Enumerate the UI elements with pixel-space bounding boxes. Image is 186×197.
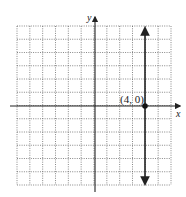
y-axis-label: y xyxy=(86,12,92,23)
coordinate-plane: x y (4, 0) xyxy=(0,0,186,197)
point-label: (4, 0) xyxy=(120,93,144,106)
x-axis-label: x xyxy=(175,108,181,119)
